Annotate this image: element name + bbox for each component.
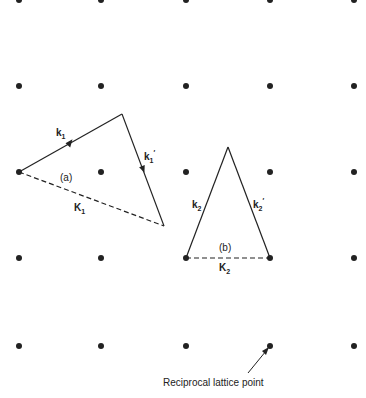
annotation-reciprocal-lattice-point: Reciprocal lattice point	[163, 377, 264, 388]
label-b: (b)	[219, 242, 231, 253]
annotation-arrow-line	[248, 351, 266, 373]
reciprocal-lattice-diagram: k1 k1′ (a) K1 k2 k2′ (b) K2 Reciprocal l…	[0, 0, 366, 398]
label-k1: k1	[56, 127, 66, 140]
label-a: (a)	[60, 172, 72, 183]
arrow-k1-prime-icon	[139, 165, 147, 174]
label-k1-prime: k1′	[144, 149, 155, 164]
annotation-arrowhead-icon	[262, 347, 269, 355]
label-k2: k2	[192, 199, 202, 212]
vector-K1	[19, 172, 164, 226]
label-K2: K2	[219, 262, 230, 275]
label-k2-prime: k2′	[253, 197, 264, 212]
label-K1: K1	[74, 202, 85, 215]
